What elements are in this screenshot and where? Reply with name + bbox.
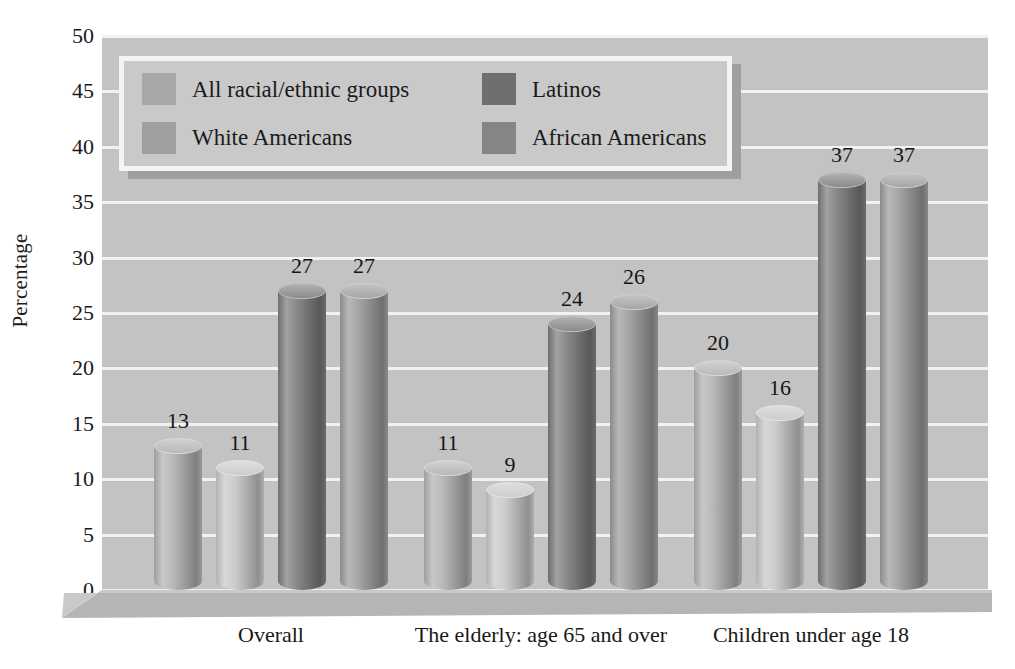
bar-body: [756, 413, 804, 590]
bar-cap: [818, 172, 866, 188]
bar-body: [880, 180, 928, 590]
bar-cap: [340, 283, 388, 299]
legend-item: Latinos: [482, 73, 727, 105]
bar-value-label: 11: [437, 432, 458, 454]
y-axis-tick-label: 30: [42, 247, 94, 269]
bar: 20: [694, 368, 742, 590]
bar-value-label: 27: [291, 255, 313, 277]
y-axis-tick-label: 35: [42, 191, 94, 213]
bar: 13: [154, 446, 202, 590]
bar: 9: [486, 490, 534, 590]
bar-value-label: 20: [707, 332, 729, 354]
bar: 16: [756, 413, 804, 590]
legend-swatch-icon: [482, 122, 516, 154]
bar: 37: [880, 180, 928, 590]
bar-body: [548, 324, 596, 590]
x-axis-category-label: The elderly: age 65 and over: [415, 622, 667, 648]
bar-value-label: 27: [353, 255, 375, 277]
bar-cap: [610, 294, 658, 310]
bar: 24: [548, 324, 596, 590]
bar-body: [340, 291, 388, 590]
floor-polygon: [62, 590, 992, 618]
bar: 11: [424, 468, 472, 590]
bar-value-label: 37: [831, 144, 853, 166]
y-axis-ticks: 50454035302520151050: [42, 36, 94, 590]
bar-body: [486, 490, 534, 590]
chart-floor: [62, 590, 992, 618]
y-axis-tick-label: 50: [42, 25, 94, 47]
bar-cap: [756, 405, 804, 421]
legend-swatch-icon: [142, 122, 176, 154]
chart-legend: All racial/ethnic groupsLatinosWhite Ame…: [119, 56, 732, 171]
legend-item: All racial/ethnic groups: [142, 73, 482, 105]
legend-item: White Americans: [142, 122, 482, 154]
bar-chart: Percentage 50454035302520151050 13112727…: [0, 0, 1015, 669]
y-axis-tick-label: 5: [42, 524, 94, 546]
bar: 27: [278, 291, 326, 590]
bar-body: [154, 446, 202, 590]
legend-label: Latinos: [532, 78, 601, 101]
bar-value-label: 16: [769, 377, 791, 399]
bar-body: [818, 180, 866, 590]
bar-value-label: 13: [167, 410, 189, 432]
y-axis-tick-label: 10: [42, 468, 94, 490]
bar-value-label: 37: [893, 144, 915, 166]
legend-label: African Americans: [532, 126, 706, 149]
bar-body: [610, 302, 658, 590]
bar-body: [278, 291, 326, 590]
bar-value-label: 9: [505, 454, 516, 476]
legend-label: White Americans: [192, 126, 352, 149]
y-axis-tick-label: 40: [42, 136, 94, 158]
bar-cap: [880, 172, 928, 188]
x-axis-category-label: Children under age 18: [713, 622, 909, 648]
y-axis-tick-label: 20: [42, 357, 94, 379]
bar-value-label: 11: [229, 432, 250, 454]
bar-value-label: 24: [561, 288, 583, 310]
bar-cap: [154, 438, 202, 454]
y-axis-tick-label: 15: [42, 413, 94, 435]
bar: 27: [340, 291, 388, 590]
y-axis-title: Percentage: [8, 221, 33, 341]
y-axis-tick-label: 25: [42, 302, 94, 324]
bar-cap: [278, 283, 326, 299]
bar-cap: [548, 316, 596, 332]
legend-swatch-icon: [482, 73, 516, 105]
bar-value-label: 26: [623, 266, 645, 288]
bar: 11: [216, 468, 264, 590]
legend-item: African Americans: [482, 122, 727, 154]
bar-body: [216, 468, 264, 590]
bar-body: [694, 368, 742, 590]
legend-swatch-icon: [142, 73, 176, 105]
bar-body: [424, 468, 472, 590]
x-axis-category-label: Overall: [238, 622, 304, 648]
legend-label: All racial/ethnic groups: [192, 78, 409, 101]
y-axis-tick-label: 45: [42, 80, 94, 102]
x-axis-category-labels: OverallThe elderly: age 65 and overChild…: [0, 622, 1015, 662]
bar: 26: [610, 302, 658, 590]
bar: 37: [818, 180, 866, 590]
